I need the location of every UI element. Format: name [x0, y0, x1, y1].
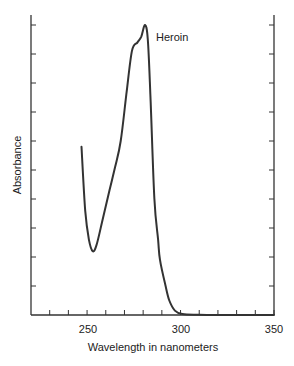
y-axis-title: Absorbance — [11, 136, 23, 195]
series-label-heroin: Heroin — [156, 31, 188, 43]
x-axis-title: Wavelength in nanometers — [88, 341, 219, 353]
heroin-spectrum-line — [82, 25, 275, 315]
x-tick-label-350: 350 — [265, 323, 283, 335]
x-tick-labels: 250 300 350 — [79, 323, 283, 335]
x-tick-label-300: 300 — [172, 323, 190, 335]
absorbance-chart: 250 300 350 Wavelength in nanometers Abs… — [0, 0, 294, 366]
x-tick-label-250: 250 — [79, 323, 97, 335]
